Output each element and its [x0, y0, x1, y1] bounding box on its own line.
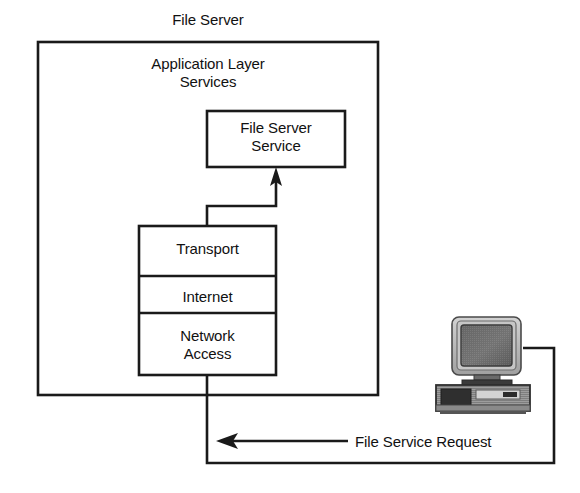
monitor-stand-neck	[474, 375, 500, 380]
case-left-vent	[441, 389, 471, 405]
transport-layer-label: Transport	[141, 240, 274, 258]
network-access-layer-label: Network Access	[141, 327, 274, 362]
desktop-computer-icon	[436, 317, 530, 414]
application-layer-services-label: Application Layer Services	[118, 55, 298, 90]
monitor-screen-texture	[462, 326, 511, 365]
case-bottom-strip	[436, 405, 530, 411]
stack-to-service-connector	[207, 180, 276, 226]
case-drive-slot	[503, 392, 517, 397]
page-title: File Server	[118, 11, 298, 29]
file-service-request-label: File Service Request	[355, 433, 565, 451]
internet-layer-label: Internet	[141, 288, 274, 306]
file-server-service-label: File Server Service	[209, 119, 343, 154]
case-foot-shadow	[440, 411, 526, 414]
